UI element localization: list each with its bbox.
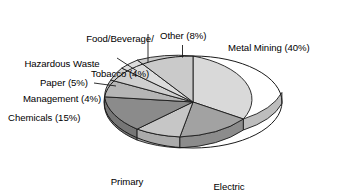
- label-primary-metals: Primary Metals (10%): [78, 153, 176, 194]
- label-chemicals: Chemicals (15%): [8, 112, 80, 124]
- label-paper: Paper (5%): [0, 77, 88, 89]
- label-hazardous-waste-management-line1: Hazardous Waste: [8, 58, 116, 70]
- label-electric-utilities-line1: Electric: [180, 181, 278, 193]
- label-metal-mining: Metal Mining (40%): [228, 42, 310, 54]
- pie-chart-figure: Food/Beverage/ Tobacco (4%) Hazardous Wa…: [0, 0, 337, 194]
- label-other: Other (8%): [160, 30, 206, 42]
- label-primary-metals-line1: Primary: [78, 176, 176, 188]
- label-hazardous-waste-management-line2: Management (4%): [8, 93, 116, 105]
- label-electric-utilities: Electric Utilities(14%): [180, 158, 278, 194]
